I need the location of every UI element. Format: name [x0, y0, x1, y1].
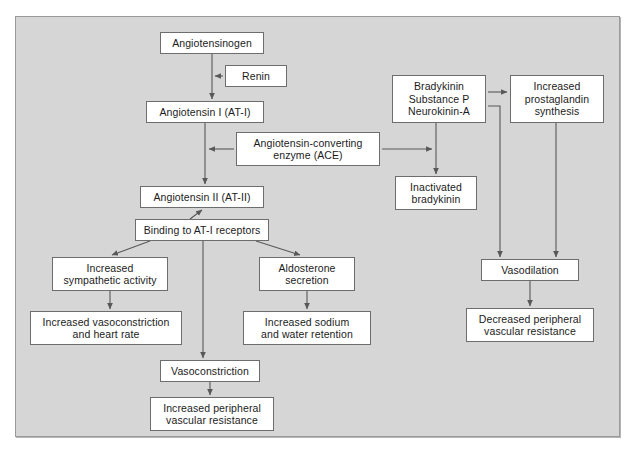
node-decreased-peripheral-vascular-resistance: Decreased peripheral vascular resistance [466, 308, 594, 342]
diagram-canvas: Angiotensinogen Renin Angiotensin I (AT-… [0, 0, 634, 457]
node-vasoconstriction: Vasoconstriction [160, 360, 260, 382]
node-ace: Angiotensin-converting enzyme (ACE) [236, 132, 380, 166]
node-increased-peripheral-vascular-resistance: Increased peripheral vascular resistance [150, 397, 274, 431]
node-increased-sympathetic-activity: Increased sympathetic activity [52, 257, 168, 291]
node-aldosterone-secretion: Aldosterone secretion [259, 257, 355, 291]
node-inactivated-bradykinin: Inactivated bradykinin [395, 176, 477, 210]
node-bradykinin-substance-p-neurokinin-a: Bradykinin Substance P Neurokinin-A [392, 75, 486, 123]
node-angiotensinogen: Angiotensinogen [160, 32, 264, 54]
node-vasodilation: Vasodilation [481, 259, 579, 281]
node-angiotensin-i: Angiotensin I (AT-I) [146, 101, 264, 123]
node-angiotensin-ii: Angiotensin II (AT-II) [140, 186, 264, 208]
node-increased-prostaglandin-synthesis: Increased prostaglandin synthesis [510, 75, 604, 123]
node-binding-at1-receptors: Binding to AT-I receptors [135, 219, 269, 241]
node-increased-vasoconstriction-heart-rate: Increased vasoconstriction and heart rat… [30, 311, 182, 345]
node-renin: Renin [225, 65, 287, 87]
node-increased-sodium-water-retention: Increased sodium and water retention [243, 311, 371, 345]
